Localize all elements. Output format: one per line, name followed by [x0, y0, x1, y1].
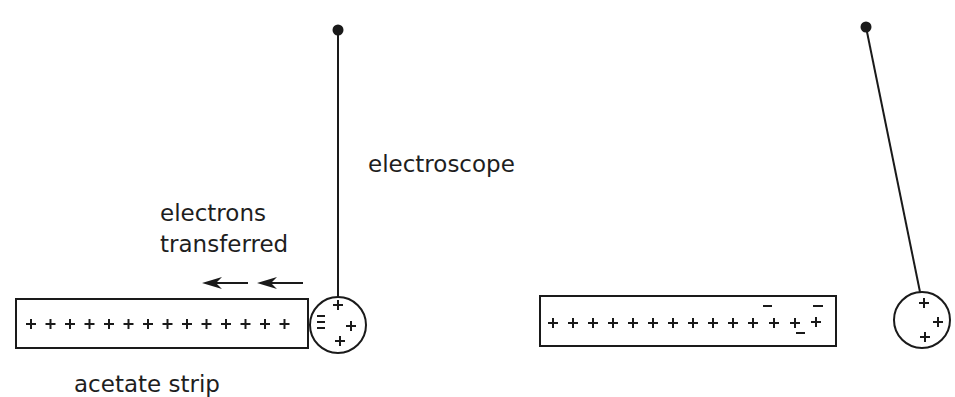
diagram-canvas: [0, 0, 955, 397]
electrons-label: electrons: [160, 199, 266, 227]
strip-plus-charges: [26, 319, 290, 329]
left-electroscope: [310, 25, 366, 354]
right-acetate-strip: [540, 296, 836, 346]
acetate-strip-label: acetate strip: [74, 370, 220, 397]
arrow-left-icon: [202, 277, 248, 289]
strip-minus-charges: [763, 306, 823, 333]
electron-transfer-arrows: [202, 277, 303, 289]
pith-ball-charges: [317, 300, 356, 346]
arrow-left-icon: [257, 277, 303, 289]
pith-ball-charges: [919, 298, 943, 342]
pith-ball: [894, 292, 950, 348]
strip-outline: [540, 296, 836, 346]
strip-plus-charges: [548, 317, 821, 328]
electroscope-label: electroscope: [368, 150, 515, 178]
left-acetate-strip: [16, 299, 308, 348]
right-electroscope: [861, 22, 951, 349]
suspension-thread-deflected: [866, 27, 920, 292]
transferred-label: transferred: [160, 230, 288, 258]
